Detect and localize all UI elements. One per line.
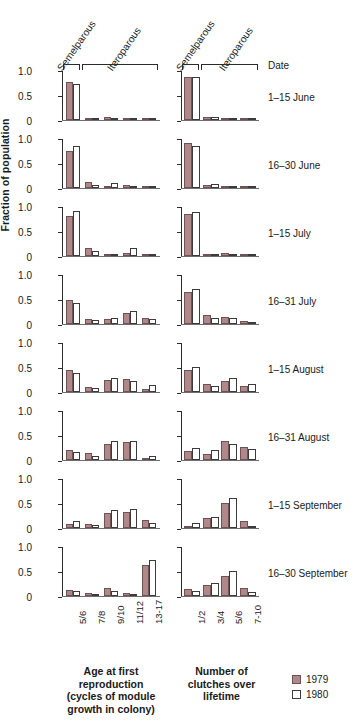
bar-1980 bbox=[130, 118, 137, 120]
bar-1979 bbox=[104, 186, 111, 188]
bar-1979 bbox=[104, 444, 111, 461]
bar-1979 bbox=[203, 315, 211, 325]
bar-panel-right bbox=[181, 275, 259, 325]
bar-category-group bbox=[139, 456, 158, 461]
bar-1979 bbox=[104, 117, 111, 120]
row-date-label: 16–31 August bbox=[268, 432, 329, 443]
y-tick-label: 0 bbox=[8, 252, 32, 263]
bracket-iteroparous-left bbox=[82, 64, 158, 70]
bar-1979 bbox=[142, 565, 149, 596]
bar-1979 bbox=[85, 387, 92, 393]
x-axis-line bbox=[181, 188, 259, 189]
y-axis-tick bbox=[177, 597, 181, 598]
bar-1980 bbox=[192, 523, 200, 529]
bar-category-group bbox=[139, 560, 158, 596]
bar-panel-right bbox=[181, 479, 259, 529]
y-axis-tick bbox=[58, 189, 62, 190]
bar-panel-right bbox=[181, 207, 259, 257]
bar-category-group bbox=[83, 524, 102, 528]
y-axis-tick bbox=[177, 368, 181, 369]
bar-category-group bbox=[202, 517, 221, 528]
y-tick-label: 0.5 bbox=[8, 499, 32, 510]
bar-category-group bbox=[202, 184, 221, 188]
bar-1979 bbox=[184, 214, 192, 256]
y-tick-label: 1.0 bbox=[8, 134, 32, 145]
bar-1979 bbox=[203, 185, 211, 188]
y-axis-tick bbox=[177, 300, 181, 301]
x-axis-line bbox=[181, 392, 259, 393]
bar-1980 bbox=[149, 118, 156, 120]
bar-1980 bbox=[229, 444, 237, 461]
panel-row: 1.00.5016–31 July bbox=[0, 275, 357, 341]
bar-1979 bbox=[240, 521, 248, 528]
bar-1980 bbox=[73, 146, 80, 188]
bar-category-group bbox=[183, 367, 202, 392]
y-tick-label: 0 bbox=[8, 388, 32, 399]
y-axis-tick bbox=[177, 325, 181, 326]
bar-1979 bbox=[221, 381, 229, 392]
panel-row: 1.00.501–15 August bbox=[0, 343, 357, 409]
y-tick-label: 1.0 bbox=[8, 474, 32, 485]
bar-1980 bbox=[111, 118, 118, 120]
bar-1979 bbox=[123, 512, 130, 529]
bar-1980 bbox=[73, 211, 80, 256]
y-axis-line bbox=[62, 479, 63, 529]
bar-1980 bbox=[130, 441, 137, 461]
y-axis-tick bbox=[177, 436, 181, 437]
bar-1980 bbox=[111, 254, 118, 256]
bar-1979 bbox=[221, 503, 229, 528]
x-axis-line bbox=[181, 460, 259, 461]
y-tick-label: 0.5 bbox=[8, 91, 32, 102]
bracket-semelparous-right bbox=[182, 64, 199, 70]
bar-1980 bbox=[130, 509, 137, 528]
bar-group-container bbox=[64, 71, 158, 120]
bar-category-group bbox=[83, 593, 102, 597]
bar-panel-left bbox=[62, 411, 160, 461]
bar-1980 bbox=[111, 510, 118, 529]
date-column-header: Date bbox=[268, 60, 289, 71]
y-axis-tick bbox=[58, 121, 62, 122]
bar-1979 bbox=[66, 216, 73, 256]
y-axis-tick bbox=[177, 461, 181, 462]
y-axis-tick bbox=[177, 479, 181, 480]
bar-1979 bbox=[66, 300, 73, 325]
bar-1980 bbox=[248, 384, 256, 392]
bar-1979 bbox=[66, 450, 73, 460]
bar-group-container bbox=[64, 547, 158, 596]
bar-1980 bbox=[211, 184, 219, 188]
y-axis-tick bbox=[58, 461, 62, 462]
y-axis-tick bbox=[58, 368, 62, 369]
x-axis-line bbox=[181, 324, 259, 325]
bar-1979 bbox=[66, 590, 73, 597]
y-axis-tick bbox=[177, 343, 181, 344]
x-axis-line bbox=[62, 188, 160, 189]
bar-group-container bbox=[64, 207, 158, 256]
x-axis-line bbox=[62, 120, 160, 121]
bar-panel-right bbox=[181, 139, 259, 189]
bar-1980 bbox=[248, 526, 256, 528]
bar-1979 bbox=[123, 593, 130, 596]
bar-1979 bbox=[142, 458, 149, 460]
bar-1980 bbox=[192, 146, 200, 189]
y-axis-tick bbox=[58, 343, 62, 344]
bar-1980 bbox=[192, 367, 200, 392]
y-axis-tick bbox=[177, 189, 181, 190]
bar-category-group bbox=[139, 254, 158, 256]
y-tick-label: 0.5 bbox=[8, 567, 32, 578]
x-tick-label: 1/2 bbox=[196, 611, 207, 624]
x-axis-title-right: Number ofclutches overlifetime bbox=[174, 665, 269, 703]
x-tick-label: 11/12 bbox=[134, 601, 145, 624]
y-axis-tick bbox=[177, 275, 181, 276]
bar-1979 bbox=[240, 447, 248, 461]
bar-group-container bbox=[64, 343, 158, 392]
bar-category-group bbox=[120, 311, 139, 325]
bar-category-group bbox=[120, 593, 139, 596]
bar-group-container bbox=[183, 139, 257, 188]
x-tick-label: 13-17 bbox=[153, 600, 164, 624]
y-axis-tick bbox=[58, 504, 62, 505]
y-axis-tick bbox=[58, 325, 62, 326]
y-tick-label: 0.5 bbox=[8, 431, 32, 442]
bar-1979 bbox=[123, 442, 130, 461]
y-tick-label: 0.5 bbox=[8, 295, 32, 306]
bar-1979 bbox=[142, 520, 149, 528]
